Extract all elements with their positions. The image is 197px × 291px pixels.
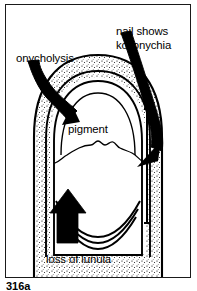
label-koilonychia-line1: nail shows (116, 25, 169, 37)
label-onycholysis: onycholysis (16, 52, 74, 64)
label-loss-of-lunula: loss of lunula (46, 253, 112, 265)
nail-diagram: onycholysis nail shows koilonychia pigme… (6, 5, 190, 277)
figure-frame: onycholysis nail shows koilonychia pigme… (5, 4, 191, 278)
figure-caption: 316a (6, 281, 96, 291)
figure-root: onycholysis nail shows koilonychia pigme… (0, 0, 197, 291)
label-pigment: pigment (68, 123, 109, 135)
label-koilonychia-line2: koilonychia (116, 39, 172, 51)
